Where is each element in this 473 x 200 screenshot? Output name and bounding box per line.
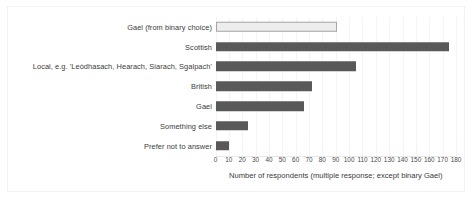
x-axis-title: Number of respondents (multiple response…	[216, 171, 457, 180]
bar	[216, 42, 450, 52]
category-label: Something else	[160, 121, 212, 130]
bar-rows: Gael (from binary choice)ScottishLocal, …	[0, 17, 473, 156]
bar	[216, 141, 229, 151]
bar-track	[216, 136, 457, 156]
bar-track	[216, 96, 457, 116]
x-tick-label-150: 150	[411, 156, 422, 163]
x-tick-label-60: 60	[292, 156, 299, 163]
x-tick-label-120: 120	[370, 156, 381, 163]
bar	[216, 82, 312, 92]
bar-row: Something else	[0, 116, 473, 136]
category-label: British	[191, 82, 212, 91]
x-tick-label-110: 110	[357, 156, 367, 163]
category-label: Prefer not to answer	[144, 141, 212, 150]
x-tick-label-30: 30	[252, 156, 259, 163]
bar-row: Gael	[0, 96, 473, 116]
bar-row: Gael (from binary choice)	[0, 17, 473, 37]
x-tick-label-100: 100	[344, 156, 355, 163]
bar-track	[216, 17, 457, 37]
bar-track	[216, 116, 457, 136]
bar-row: Prefer not to answer	[0, 136, 473, 156]
plot-area: Gael (from binary choice)ScottishLocal, …	[0, 0, 473, 200]
x-tick-label-10: 10	[225, 156, 232, 163]
x-tick-label-20: 20	[239, 156, 246, 163]
category-label: Local, e.g. 'Leòdhasach, Hearach, Siarac…	[33, 62, 212, 71]
bar-row: Local, e.g. 'Leòdhasach, Hearach, Siarac…	[0, 57, 473, 77]
category-label: Gael (from binary choice)	[127, 22, 212, 31]
bar-row: British	[0, 76, 473, 96]
bar	[216, 101, 304, 111]
x-tick-label-40: 40	[265, 156, 272, 163]
category-label: Scottish	[185, 42, 212, 51]
x-tick-label-130: 130	[384, 156, 395, 163]
bar-row: Scottish	[0, 37, 473, 57]
bar-track	[216, 76, 457, 96]
bar-track	[216, 37, 457, 57]
bar	[216, 62, 356, 72]
bar	[216, 22, 338, 33]
x-tick-label-50: 50	[279, 156, 286, 163]
bar-track	[216, 57, 457, 77]
x-tick-label-140: 140	[397, 156, 408, 163]
x-tick-label-80: 80	[319, 156, 326, 163]
x-tick-label-170: 170	[437, 156, 448, 163]
bar-chart-figure: Gael (from binary choice)ScottishLocal, …	[0, 0, 473, 200]
x-tick-label-180: 180	[451, 156, 462, 163]
x-tick-label-70: 70	[305, 156, 312, 163]
bar	[216, 121, 248, 131]
x-tick-label-160: 160	[424, 156, 435, 163]
x-axis-tick-labels: 0102030405060708090100110120130140150160…	[216, 156, 457, 168]
x-tick-label-90: 90	[332, 156, 339, 163]
category-label: Gael	[196, 102, 212, 111]
x-tick-label-0: 0	[214, 156, 218, 163]
